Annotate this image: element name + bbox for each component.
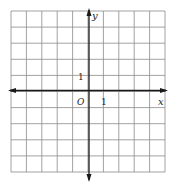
x-axis-label: x xyxy=(158,96,164,107)
y-axis-label: y xyxy=(91,10,98,21)
y-unit-label: 1 xyxy=(78,72,84,82)
coordinate-plane: y x O 1 1 xyxy=(0,0,173,196)
x-axis-left-arrow-icon xyxy=(8,88,16,93)
x-unit-label: 1 xyxy=(101,97,107,107)
y-axis-up-arrow-icon xyxy=(87,8,92,16)
origin-label: O xyxy=(77,97,85,107)
grid xyxy=(11,11,165,172)
y-axis-down-arrow-icon xyxy=(87,174,92,182)
x-axis-right-arrow-icon xyxy=(160,88,168,93)
